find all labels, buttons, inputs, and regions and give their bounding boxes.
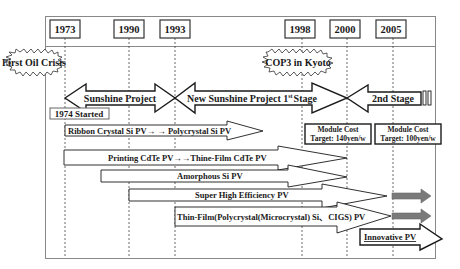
continuation-bar	[423, 91, 426, 105]
sunshine-project-label: Sunshine Project	[84, 93, 157, 104]
module-cost-target-2000: Module Cost Target: 140yen/w	[305, 124, 371, 144]
year-label: 1993	[165, 24, 186, 35]
year-box-1998: 1998	[285, 20, 315, 38]
tech-label: Ribbon Crystal Si PV→ → Polycrystal Si P…	[68, 126, 232, 136]
tech-label: Printing CdTe PV→→Thine-Film CdTe PV	[108, 153, 267, 163]
year-label: 1973	[55, 24, 76, 35]
module-cost-target-2005: Module Cost Target: 100yen/w	[375, 124, 441, 144]
pv-rd-timeline-diagram: 1973 1990 1993 1998 2000 2005 First Oil …	[0, 0, 460, 269]
new-sunshine-1st-stage-arrow: New Sunshine Project 1stStage	[175, 83, 347, 113]
cop3-kyoto-burst: COP3 in Kyoto	[262, 49, 333, 76]
second-stage-arrow: 2nd Stage	[347, 85, 431, 112]
year-label: 2000	[335, 24, 356, 35]
year-label: 1998	[290, 24, 311, 35]
target-line2: Target: 100yen/w	[380, 134, 436, 143]
year-box-2005: 2005	[376, 20, 406, 38]
continuation-bar	[428, 91, 431, 105]
year-label: 2005	[381, 24, 402, 35]
second-stage-label: 2nd Stage	[372, 93, 415, 104]
tech-arrow-super-high-efficiency: Super High Efficiency PV	[129, 184, 431, 208]
year-label: 1990	[119, 24, 140, 35]
year-box-1973: 1973	[50, 20, 80, 38]
year-box-1990: 1990	[114, 20, 144, 38]
tech-arrow-printing-cdte: Printing CdTe PV→→Thine-Film CdTe PV	[64, 146, 347, 170]
tech-arrow-ribbon-crystal: Ribbon Crystal Si PV→ → Polycrystal Si P…	[65, 121, 263, 140]
tech-arrow-innovative-pv: Innovative PV	[360, 224, 442, 250]
tech-label: Thin-Film(Polycrystal(Microcrystal) Si、C…	[177, 212, 366, 222]
target-line1: Module Cost	[317, 125, 359, 134]
tech-arrow-amorphous-si: Amorphous Si PV	[101, 165, 347, 187]
tech-label: Innovative PV	[364, 232, 417, 242]
year-box-1993: 1993	[160, 20, 190, 38]
new-sunshine-project-label: New Sunshine Project 1stStage	[187, 93, 317, 104]
continuation-arrow	[392, 209, 431, 223]
started-1974-tag: 1974 Started	[50, 108, 109, 119]
first-oil-crisis-burst: First Oil Crisis	[2, 49, 66, 76]
tech-label: Super High Efficiency PV	[195, 190, 289, 200]
year-labels: 1973 1990 1993 1998 2000 2005	[50, 20, 406, 38]
tech-label: Amorphous Si PV	[177, 171, 244, 181]
started-1974-label: 1974 Started	[55, 109, 104, 119]
first-oil-crisis-label: First Oil Crisis	[2, 57, 66, 68]
year-box-2000: 2000	[330, 20, 360, 38]
continuation-arrow	[392, 189, 431, 203]
cop3-label: COP3 in Kyoto	[265, 57, 331, 68]
target-line2: Target: 140yen/w	[310, 134, 366, 143]
target-line1: Module Cost	[387, 125, 429, 134]
